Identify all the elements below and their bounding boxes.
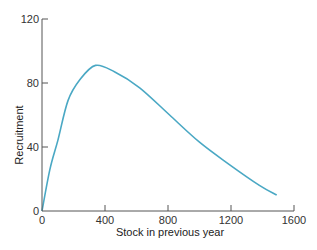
y-tick-label: 80 bbox=[27, 77, 39, 89]
y-axis-title: Recruitment bbox=[13, 105, 25, 164]
y-tick-label: 40 bbox=[27, 141, 39, 153]
x-tick-label: 400 bbox=[96, 214, 114, 226]
x-tick-label: 1200 bbox=[219, 214, 243, 226]
y-tick-label: 120 bbox=[21, 13, 39, 25]
x-tick-label: 0 bbox=[39, 214, 45, 226]
y-tick-label: 0 bbox=[33, 205, 39, 217]
x-axis-title: Stock in previous year bbox=[116, 226, 225, 238]
x-axis-ticks: 040080012001600 bbox=[39, 205, 306, 226]
recruitment-curve bbox=[42, 65, 277, 211]
plot-area bbox=[42, 65, 277, 211]
stock-recruitment-chart: 040080012001600 04080120 Stock in previo… bbox=[0, 0, 317, 250]
x-tick-label: 800 bbox=[159, 214, 177, 226]
x-tick-label: 1600 bbox=[282, 214, 306, 226]
